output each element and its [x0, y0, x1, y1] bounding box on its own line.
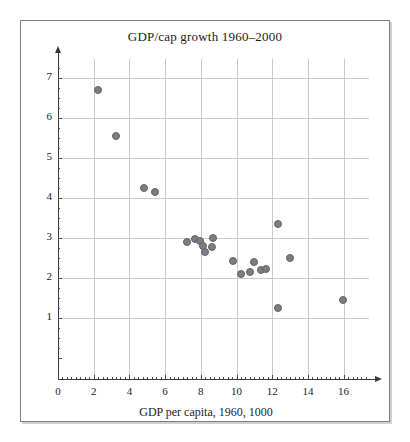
- x-tick-label: 8: [189, 385, 213, 397]
- x-tick-label: 6: [153, 385, 177, 397]
- y-tick-minor: [58, 338, 60, 339]
- gridline-vertical: [237, 59, 238, 379]
- y-axis-line: [58, 53, 59, 379]
- y-tick-minor: [58, 208, 60, 209]
- y-tick-major: [58, 118, 62, 119]
- x-tick-minor: [228, 377, 229, 379]
- gridline-vertical: [201, 59, 202, 379]
- scatter-plot: 02468101214161234567: [21, 21, 391, 423]
- x-tick-minor: [174, 377, 175, 379]
- x-tick-label: 10: [225, 385, 249, 397]
- scatter-point: [262, 265, 270, 273]
- figure-frame: GDP/cap growth 1960–2000 024681012141612…: [20, 20, 390, 422]
- y-tick-label: 1: [36, 310, 52, 322]
- x-tick-minor: [138, 377, 139, 379]
- x-tick-minor: [317, 377, 318, 379]
- scatter-point: [339, 296, 347, 304]
- x-tick-minor: [67, 377, 68, 379]
- x-tick-minor: [286, 377, 287, 379]
- x-tick-minor: [330, 377, 331, 379]
- y-tick-minor: [58, 298, 60, 299]
- scatter-point: [274, 304, 282, 312]
- x-tick-major: [129, 375, 130, 379]
- y-tick-minor: [58, 258, 60, 259]
- x-axis-title: GDP per capita, 1960, 1000: [21, 405, 391, 420]
- x-tick-minor: [170, 377, 171, 379]
- x-tick-minor: [366, 377, 367, 379]
- scatter-point: [250, 258, 258, 266]
- scatter-point: [183, 238, 191, 246]
- x-tick-minor: [254, 377, 255, 379]
- x-tick-minor: [156, 377, 157, 379]
- y-tick-label: 6: [36, 110, 52, 122]
- gridline-vertical: [94, 59, 95, 379]
- y-axis-arrow-icon: [55, 46, 61, 53]
- x-tick-label: 2: [82, 385, 106, 397]
- x-tick-major: [344, 375, 345, 379]
- x-tick-minor: [353, 377, 354, 379]
- x-tick-minor: [263, 377, 264, 379]
- gridline-vertical: [165, 59, 166, 379]
- x-tick-minor: [85, 377, 86, 379]
- y-tick-minor: [58, 178, 60, 179]
- x-tick-minor: [161, 377, 162, 379]
- gridline-vertical: [272, 59, 273, 379]
- x-tick-minor: [268, 377, 269, 379]
- x-tick-minor: [196, 377, 197, 379]
- y-tick-minor: [58, 228, 60, 229]
- y-tick-label: 4: [36, 190, 52, 202]
- x-axis-arrow-icon: [375, 376, 382, 382]
- y-tick-minor: [58, 88, 60, 89]
- y-tick-major: [58, 198, 62, 199]
- gridline-horizontal: [58, 278, 369, 279]
- x-tick-major: [308, 375, 309, 379]
- x-tick-minor: [107, 377, 108, 379]
- scatter-point: [237, 270, 245, 278]
- x-tick-minor: [219, 377, 220, 379]
- y-tick-major: [58, 318, 62, 319]
- x-tick-minor: [98, 377, 99, 379]
- x-tick-minor: [71, 377, 72, 379]
- x-tick-minor: [357, 377, 358, 379]
- x-tick-minor: [339, 377, 340, 379]
- x-tick-label: 4: [117, 385, 141, 397]
- x-tick-minor: [116, 377, 117, 379]
- x-tick-minor: [120, 377, 121, 379]
- y-tick-minor: [58, 268, 60, 269]
- y-tick-major: [58, 78, 62, 79]
- x-tick-major: [94, 375, 95, 379]
- x-tick-minor: [250, 377, 251, 379]
- y-tick-minor: [58, 348, 60, 349]
- x-tick-major: [201, 375, 202, 379]
- x-tick-label: 12: [260, 385, 284, 397]
- scatter-point: [140, 184, 148, 192]
- x-tick-minor: [143, 377, 144, 379]
- x-tick-major: [165, 375, 166, 379]
- y-tick-label: 7: [36, 70, 52, 82]
- y-tick-minor: [58, 188, 60, 189]
- y-tick-major: [58, 358, 62, 359]
- x-tick-minor: [152, 377, 153, 379]
- scatter-point: [208, 243, 216, 251]
- x-tick-minor: [321, 377, 322, 379]
- gridline-vertical: [308, 59, 309, 379]
- scatter-point: [286, 254, 294, 262]
- x-tick-major: [272, 375, 273, 379]
- y-tick-minor: [58, 98, 60, 99]
- x-tick-minor: [187, 377, 188, 379]
- gridline-horizontal: [58, 198, 369, 199]
- x-tick-minor: [277, 377, 278, 379]
- x-tick-minor: [361, 377, 362, 379]
- gridline-vertical: [344, 59, 345, 379]
- x-tick-minor: [295, 377, 296, 379]
- gridline-horizontal: [58, 78, 369, 79]
- page-root: GDP/cap growth 1960–2000 024681012141612…: [0, 0, 410, 442]
- y-tick-minor: [58, 68, 60, 69]
- x-tick-label: 0: [46, 385, 70, 397]
- x-tick-minor: [210, 377, 211, 379]
- x-tick-minor: [183, 377, 184, 379]
- x-tick-minor: [299, 377, 300, 379]
- x-tick-minor: [125, 377, 126, 379]
- scatter-point: [229, 257, 237, 265]
- scatter-point: [151, 188, 159, 196]
